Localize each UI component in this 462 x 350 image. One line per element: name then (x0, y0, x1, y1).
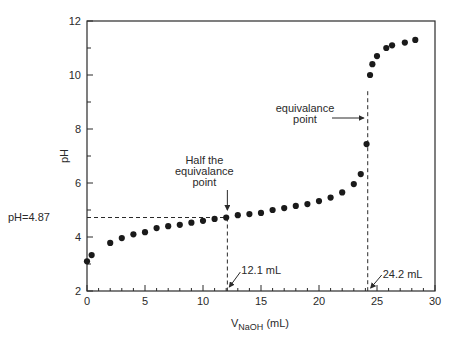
data-point (165, 223, 171, 229)
data-point (154, 225, 160, 231)
data-point (369, 61, 375, 67)
plot-frame (87, 21, 435, 291)
half-equivalence-volume-label: 12.1 mL (241, 264, 281, 276)
titration-chart: 05101520253024681012 Half theequivalance… (0, 0, 462, 350)
y-tick-label: 2 (75, 285, 81, 297)
equivalence-label-line: point (293, 113, 317, 125)
annotations: Half theequivalancepointpH=4.8712.1 mLeq… (8, 102, 422, 288)
data-point (130, 231, 136, 237)
data-point (188, 220, 194, 226)
data-point (107, 240, 113, 246)
x-axis-label-sub: NaOH (238, 322, 263, 332)
data-point (119, 235, 125, 241)
equivalence-volume-label: 24.2 mL (383, 268, 423, 280)
data-point (293, 203, 299, 209)
y-tick-label: 10 (69, 69, 81, 81)
y-tick-label: 12 (69, 15, 81, 27)
data-point (374, 53, 380, 59)
x-tick-label: 0 (84, 295, 90, 307)
data-point (304, 201, 310, 207)
x-axis-label: VNaOH (mL) (231, 317, 289, 332)
data-point (351, 181, 357, 187)
half-equivalence-label-line: point (192, 176, 216, 188)
data-point (200, 218, 206, 224)
data-point (177, 222, 183, 228)
x-tick-label: 5 (142, 295, 148, 307)
data-point (412, 37, 418, 43)
data-point (383, 45, 389, 51)
x-axis-label-unit: (mL) (263, 317, 289, 329)
y-tick-label: 4 (75, 231, 81, 243)
data-point (367, 72, 373, 78)
data-point (258, 210, 264, 216)
x-tick-label: 20 (313, 295, 325, 307)
data-point (223, 214, 229, 220)
x-tick-label: 15 (255, 295, 267, 307)
data-point (316, 198, 322, 204)
data-point (281, 205, 287, 211)
data-point (363, 141, 369, 147)
y-axis-label: pH (58, 149, 70, 163)
y-tick-label: 8 (75, 123, 81, 135)
data-point (212, 216, 218, 222)
data-point (89, 252, 95, 258)
data-point (389, 42, 395, 48)
equivalence-volume-arrow (371, 275, 382, 288)
half-equivalence-ph-label: pH=4.87 (8, 211, 50, 223)
x-tick-label: 10 (197, 295, 209, 307)
x-tick-label: 25 (371, 295, 383, 307)
data-point (84, 258, 90, 264)
data-point (402, 40, 408, 46)
data-point (358, 171, 364, 177)
x-tick-label: 30 (429, 295, 441, 307)
data-point (339, 189, 345, 195)
y-tick-label: 6 (75, 177, 81, 189)
data-point (328, 194, 334, 200)
half-equivalence-volume-arrow (229, 272, 240, 287)
data-point (270, 207, 276, 213)
data-point (142, 229, 148, 235)
data-point (235, 212, 241, 218)
data-point (246, 211, 252, 217)
